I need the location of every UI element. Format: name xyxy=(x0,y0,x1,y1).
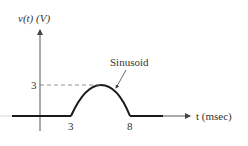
y-tick-3: 3 xyxy=(31,79,37,91)
y-axis-label: v(t) (V) xyxy=(18,12,50,25)
x-axis-label: t (msec) xyxy=(196,110,232,123)
annotation-label: Sinusoid xyxy=(110,56,149,68)
sinusoid-pulse xyxy=(71,85,130,116)
signal-diagram: v(t) (V) Sinusoid 3 3 8 t (msec) xyxy=(0,0,248,146)
x-tick-3: 3 xyxy=(68,120,74,132)
x-tick-8: 8 xyxy=(127,120,133,132)
annotation-arrow xyxy=(116,70,126,88)
